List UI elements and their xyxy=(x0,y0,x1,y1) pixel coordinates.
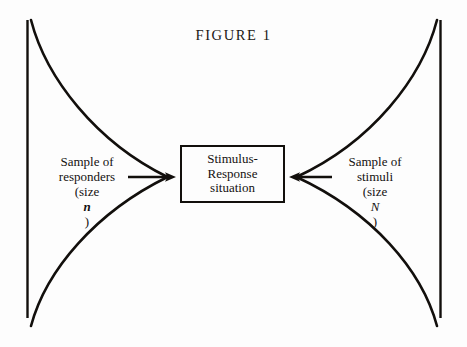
right-label-size: (size N) xyxy=(337,184,413,229)
right-label-size-suffix: ) xyxy=(337,214,413,229)
left-arrow xyxy=(128,172,176,182)
left-label-size-prefix: (size xyxy=(48,184,126,199)
left-label-line-2: responders xyxy=(48,169,126,184)
center-box: Stimulus- Response situation xyxy=(180,145,285,203)
center-box-line-2: Response xyxy=(208,167,258,182)
left-label-size-suffix: ) xyxy=(48,214,126,229)
center-box-line-1: Stimulus- xyxy=(207,152,258,167)
right-label-line-2: stimuli xyxy=(337,169,413,184)
left-label-size: (size n) xyxy=(48,184,126,229)
right-label-size-prefix: (size xyxy=(337,184,413,199)
left-label-size-symbol: n xyxy=(48,199,126,214)
left-sample-label: Sample of responders (size n) xyxy=(48,154,126,229)
right-label-line-1: Sample of xyxy=(337,154,413,169)
figure-title: FIGURE 1 xyxy=(0,27,467,44)
right-label-size-symbol: N xyxy=(337,199,413,214)
right-sample-label: Sample of stimuli (size N) xyxy=(337,154,413,229)
right-arrow xyxy=(289,172,332,182)
left-label-line-1: Sample of xyxy=(48,154,126,169)
center-box-line-3: situation xyxy=(210,181,255,196)
figure-container: FIGURE 1 Stimulus- Response situation Sa… xyxy=(0,0,467,347)
